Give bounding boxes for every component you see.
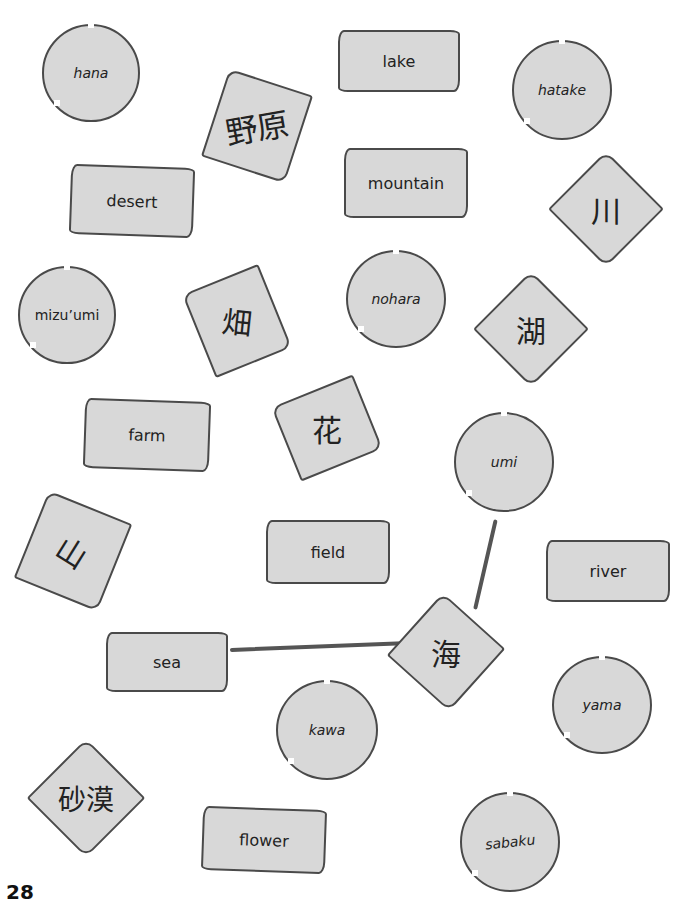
card-label: hana (74, 65, 109, 81)
page-number: 28 (6, 880, 34, 904)
card-field[interactable]: field (266, 520, 390, 584)
card-label: 海 (431, 630, 461, 674)
connection-line-sea-umi-kanji (230, 641, 405, 651)
card-label: 山 (49, 524, 98, 577)
card-hatake-kanji[interactable]: 畑 (182, 264, 292, 378)
card-kawa-kanji[interactable]: 川 (548, 151, 664, 267)
card-hatake[interactable]: hatake (512, 40, 612, 140)
card-label: mizu’umi (35, 307, 100, 323)
card-label: umi (491, 454, 517, 470)
card-label: sabaku (484, 831, 536, 852)
card-label: farm (128, 425, 166, 445)
card-label: sea (153, 653, 181, 672)
card-sabaku[interactable]: sabaku (460, 792, 560, 892)
card-nohara[interactable]: nohara (346, 250, 446, 348)
card-label: river (590, 562, 627, 581)
card-hana-kanji[interactable]: 花 (271, 374, 383, 481)
card-river[interactable]: river (546, 540, 670, 602)
card-label: 花 (312, 406, 342, 450)
card-label: lake (383, 52, 416, 71)
card-umi[interactable]: umi (454, 412, 554, 512)
card-umi-kanji[interactable]: 海 (387, 593, 506, 712)
card-label: 湖 (516, 307, 546, 351)
card-kawa[interactable]: kawa (276, 680, 378, 780)
card-label: yama (582, 697, 621, 713)
card-nohara-kanji[interactable]: 野原 (201, 69, 313, 184)
card-label: desert (106, 191, 158, 212)
card-mountain[interactable]: mountain (344, 148, 468, 218)
card-label: field (311, 543, 346, 562)
card-yama-kanji[interactable]: 山 (14, 491, 133, 612)
card-mizuumi[interactable]: mizu’umi (18, 266, 116, 364)
card-label: 砂漠 (58, 778, 114, 818)
card-label: 野原 (221, 98, 292, 154)
card-flower[interactable]: flower (201, 806, 327, 874)
connection-line-umi-kanji-umi (474, 519, 498, 609)
card-label: hatake (538, 82, 586, 98)
card-label: 畑 (220, 298, 254, 345)
card-yama[interactable]: yama (552, 656, 652, 754)
card-label: mountain (368, 174, 444, 193)
card-label: flower (239, 830, 289, 851)
card-label: kawa (309, 722, 346, 738)
card-farm[interactable]: farm (83, 398, 211, 472)
card-label: 川 (591, 187, 621, 231)
card-mizuumi-kanji[interactable]: 湖 (473, 271, 589, 387)
card-sea[interactable]: sea (106, 632, 228, 692)
card-desert[interactable]: desert (69, 164, 195, 238)
card-sabaku-kanji[interactable]: 砂漠 (27, 739, 146, 858)
card-lake[interactable]: lake (338, 30, 460, 92)
card-hana[interactable]: hana (42, 24, 140, 122)
card-label: nohara (371, 291, 420, 307)
